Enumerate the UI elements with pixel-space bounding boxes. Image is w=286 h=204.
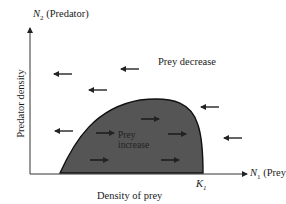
predator-prey-isocline-diagram bbox=[0, 0, 286, 204]
y-axis-variable-label: N2 (Predator) bbox=[33, 8, 89, 22]
prey-increase-line2: increase bbox=[118, 140, 149, 150]
x-var-text: (Prey) bbox=[263, 167, 286, 178]
y-axis-title: Predator density bbox=[15, 64, 26, 144]
carrying-capacity-marker: K1 bbox=[196, 178, 207, 192]
k-var: K bbox=[196, 178, 203, 189]
y-var-text: (Predator) bbox=[46, 8, 89, 19]
x-axis-title: Density of prey bbox=[97, 190, 162, 201]
x-var-subscript: 1 bbox=[257, 173, 261, 181]
x-axis-variable-label: N1 (Prey) bbox=[250, 167, 286, 181]
prey-decrease-label: Prey decrease bbox=[158, 56, 216, 67]
prey-increase-label: Prey increase bbox=[118, 130, 149, 150]
k-subscript: 1 bbox=[203, 184, 207, 192]
y-var-subscript: 2 bbox=[40, 14, 44, 22]
prey-increase-line1: Prey bbox=[118, 130, 149, 140]
y-var: N bbox=[33, 8, 40, 19]
x-var: N bbox=[250, 167, 257, 178]
